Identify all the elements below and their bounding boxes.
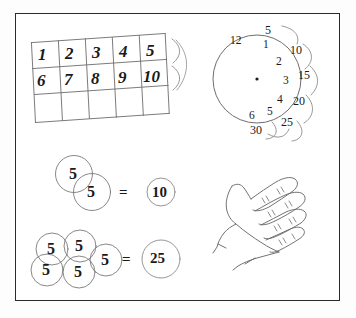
eq1-addend-0: 5 — [69, 166, 77, 182]
grid-cell-r1c1: 7 — [64, 71, 73, 88]
grid-cell-r0c3: 4 — [119, 43, 128, 60]
clock-hour-4: 4 — [277, 94, 283, 106]
eq1-equals-sign: = — [119, 185, 128, 200]
grid-cell-r0c2: 3 — [92, 44, 101, 61]
clock-minute-5: 5 — [265, 24, 271, 36]
clock-minute-30: 30 — [250, 124, 262, 136]
clock-minute-25: 25 — [281, 116, 293, 128]
eq2-addend-0: 5 — [47, 241, 55, 257]
grid-cell-r1c2: 8 — [91, 70, 100, 87]
eq1-addend-1: 5 — [87, 184, 95, 200]
grid-cell-r0c0: 1 — [38, 46, 47, 63]
eq2-addend-2: 5 — [101, 252, 109, 268]
grid-cell-r1c0: 6 — [37, 72, 46, 89]
clock-minute-15: 15 — [298, 69, 310, 81]
clock-hour-2: 2 — [276, 56, 282, 68]
eq1-result: 10 — [152, 185, 167, 200]
clock-hour-3: 3 — [283, 75, 289, 87]
eq2-addend-4: 5 — [74, 264, 82, 280]
clock-minute-20: 20 — [293, 95, 305, 107]
eq2-result: 25 — [150, 251, 165, 266]
grid-cell-r1c3: 9 — [118, 69, 127, 86]
grid-cell-r0c4: 5 — [146, 42, 155, 59]
clock-hour-1: 1 — [263, 39, 269, 51]
clock-hour-5: 5 — [267, 106, 273, 118]
grid-cell-r1c4: 10 — [143, 68, 160, 85]
eq2-addend-3: 5 — [42, 262, 50, 278]
eq2-addend-1: 5 — [75, 238, 83, 254]
clock-hour-12: 12 — [230, 35, 242, 47]
clock-minute-10: 10 — [290, 44, 302, 56]
eq2-equals-sign: = — [122, 252, 131, 267]
clock-hour-6: 6 — [249, 110, 255, 122]
worksheet-page: 1 2 3 4 5 6 7 8 9 10 12 1 2 3 4 5 6 5 10… — [0, 0, 356, 318]
grid-cell-r0c1: 2 — [65, 45, 74, 62]
